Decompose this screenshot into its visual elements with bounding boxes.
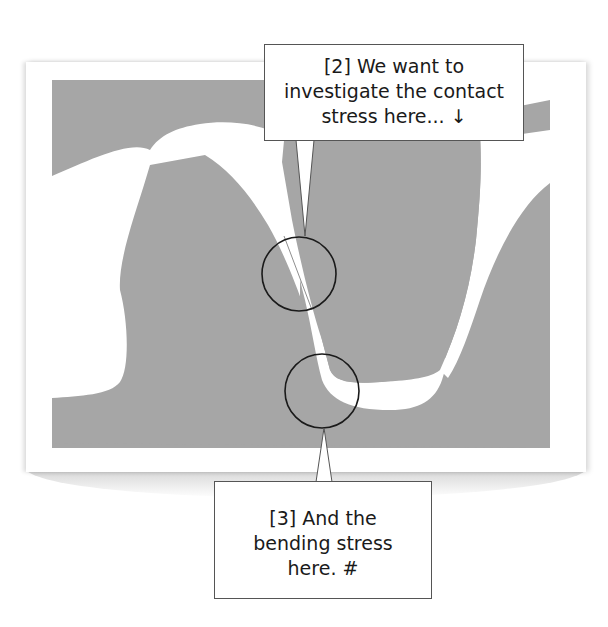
- contact-stress-callout: [2] We want to investigate the contact s…: [264, 44, 524, 141]
- bottom-callout-pointer: [316, 428, 332, 482]
- callout-line: [2] We want to: [265, 54, 523, 79]
- callout-line: here. #: [215, 556, 431, 581]
- callout-line: stress here... ↓: [265, 104, 523, 129]
- callout-line: bending stress: [215, 531, 431, 556]
- callout-line: [3] And the: [215, 506, 431, 531]
- bending-stress-callout: [3] And the bending stress here. #: [214, 481, 432, 599]
- top-callout-pointer: [296, 140, 314, 236]
- callout-line: investigate the contact: [265, 79, 523, 104]
